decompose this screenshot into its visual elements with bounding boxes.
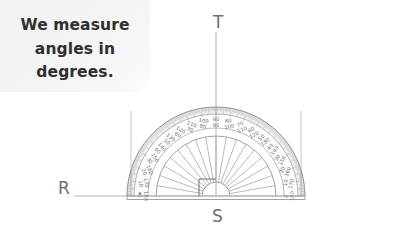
- protractor-inner-ray: [229, 175, 272, 191]
- illustration-canvas: We measure angles in degrees. 0180101702…: [0, 0, 402, 242]
- protractor-inner-ray: [195, 140, 211, 183]
- protractor-scale-label-pair: 10080: [197, 117, 209, 130]
- vertex-label-r: R: [58, 180, 70, 197]
- protractor-inner-ray: [218, 137, 226, 182]
- cartoon-person: [312, 36, 402, 242]
- protractor-scale-label-pair: 17010: [137, 177, 150, 189]
- vertex-label-s: S: [212, 208, 223, 225]
- protractor-inner-scale-number: 80: [199, 123, 207, 130]
- protractor-scale-label-pair: 11070: [184, 119, 197, 133]
- protractor-inner-ray: [160, 175, 203, 191]
- protractor-scale-label-pair: 16020: [140, 164, 154, 177]
- protractor-inner-ray: [157, 186, 202, 194]
- protractor-inner-ray: [230, 186, 275, 194]
- protractor-inner-scale-number: 100: [224, 122, 235, 130]
- protractor-scale-label-pair: 80100: [223, 117, 235, 130]
- protractor-inner-ray: [206, 137, 214, 182]
- vertex-label-t: T: [213, 14, 223, 31]
- protractor-scale-label-pair: 70110: [234, 119, 247, 133]
- protractor-inner-scale-number: 20: [141, 168, 149, 176]
- protractor-inner-ray: [221, 140, 237, 183]
- protractor-inner-scale-number: 10: [138, 180, 145, 188]
- protractor-origin-dot: [138, 192, 141, 195]
- protractor-inner-scale-number: 170: [287, 178, 295, 189]
